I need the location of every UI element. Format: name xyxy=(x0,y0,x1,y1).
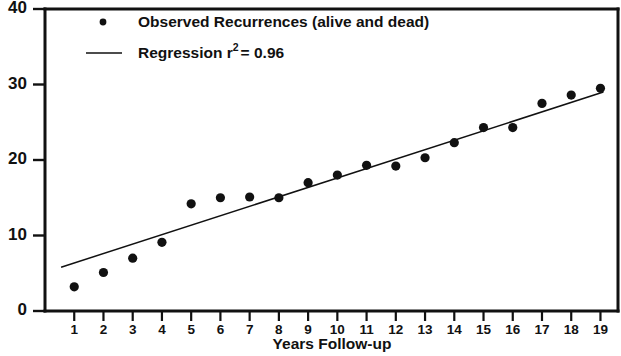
x-axis: 12345678910111213141516171819 xyxy=(70,311,607,337)
y-tick-label: 0 xyxy=(18,300,27,319)
legend-label-observed: Observed Recurrences (alive and dead) xyxy=(138,13,429,30)
x-tick-label: 15 xyxy=(476,322,492,337)
x-tick-label: 5 xyxy=(187,322,195,337)
y-tick-label: 30 xyxy=(8,74,27,93)
data-point xyxy=(333,171,342,180)
x-tick-label: 1 xyxy=(70,322,78,337)
y-tick-label: 40 xyxy=(8,0,27,17)
x-tick-label: 2 xyxy=(100,322,108,337)
chart-container: 010203040 12345678910111213141516171819 … xyxy=(0,0,621,356)
data-point xyxy=(537,99,546,108)
legend-regression-prefix: Regression r xyxy=(138,44,233,61)
legend: Observed Recurrences (alive and dead) Re… xyxy=(86,13,429,61)
data-point xyxy=(450,138,459,147)
data-point xyxy=(391,161,400,170)
x-tick-label: 6 xyxy=(217,322,225,337)
x-tick-label: 16 xyxy=(505,322,521,337)
data-point xyxy=(157,238,166,247)
data-point xyxy=(420,153,429,162)
x-tick-label: 13 xyxy=(418,322,434,337)
y-tick-label: 10 xyxy=(8,225,27,244)
x-tick-label: 19 xyxy=(593,322,608,337)
data-point xyxy=(187,199,196,208)
data-point xyxy=(596,84,605,93)
x-tick-label: 7 xyxy=(246,322,254,337)
x-tick-label: 18 xyxy=(564,322,580,337)
legend-dot-marker-icon xyxy=(100,19,107,26)
legend-regression-suffix: = 0.96 xyxy=(241,44,285,61)
data-point xyxy=(304,178,313,187)
data-point xyxy=(70,282,79,291)
data-points xyxy=(70,84,605,292)
data-point xyxy=(567,90,576,99)
data-point xyxy=(274,193,283,202)
y-axis: 010203040 xyxy=(8,0,45,319)
data-point xyxy=(479,123,488,132)
axes xyxy=(45,9,618,311)
legend-regression-superscript: 2 xyxy=(233,41,239,53)
x-tick-label: 17 xyxy=(534,322,549,337)
data-point xyxy=(245,192,254,201)
data-point xyxy=(216,193,225,202)
data-point xyxy=(128,254,137,263)
data-point xyxy=(508,123,517,132)
x-axis-title: Years Follow-up xyxy=(273,335,392,352)
y-tick-label: 20 xyxy=(8,149,27,168)
legend-label-regression: Regression r2= 0.96 xyxy=(138,41,285,61)
x-tick-label: 3 xyxy=(129,322,137,337)
data-point xyxy=(362,161,371,170)
scatter-plot: 010203040 12345678910111213141516171819 … xyxy=(0,0,621,356)
regression-line xyxy=(61,92,603,267)
x-tick-label: 4 xyxy=(158,322,166,337)
x-tick-label: 14 xyxy=(447,322,463,337)
data-point xyxy=(99,268,108,277)
